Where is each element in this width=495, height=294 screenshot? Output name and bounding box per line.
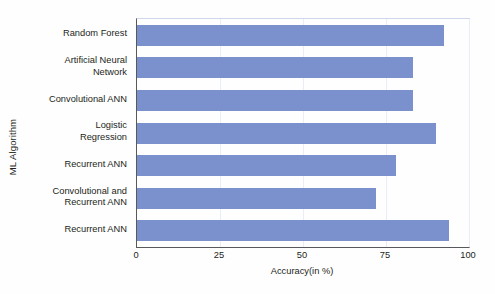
- y-axis-tick-label: Logistic Regression: [26, 116, 132, 149]
- gridline: [469, 19, 470, 247]
- bar-slot: [137, 84, 469, 117]
- x-axis-tick-label: 75: [380, 250, 390, 260]
- bar-slot: [137, 149, 469, 182]
- plot-area: [136, 18, 470, 248]
- y-axis-tick-label: Convolutional ANN: [26, 83, 132, 116]
- bar: [137, 25, 444, 46]
- bar-slot: [137, 182, 469, 215]
- x-axis-tick-label: 100: [460, 250, 476, 260]
- bar: [137, 123, 436, 144]
- x-axis-title: Accuracy(in %): [136, 266, 468, 276]
- y-axis-tick-label: Artificial Neural Network: [26, 51, 132, 84]
- bar: [137, 188, 376, 209]
- bar-slot: [137, 19, 469, 52]
- bar: [137, 57, 413, 78]
- bar-series: [137, 19, 469, 247]
- x-axis-tick-label: 25: [214, 250, 224, 260]
- bar-chart: ML Algorithm Random Forest Artificial Ne…: [0, 0, 495, 294]
- y-axis-tick-label: Random Forest: [26, 18, 132, 51]
- x-axis-tick-labels: 0255075100: [136, 250, 468, 264]
- y-axis-tick-labels: Random Forest Artificial Neural Network …: [26, 18, 132, 246]
- bar-slot: [137, 117, 469, 150]
- y-axis-tick-label: Convolutional and Recurrent ANN: [26, 181, 132, 214]
- bar: [137, 90, 413, 111]
- bar: [137, 220, 449, 241]
- y-axis-tick-label: Recurrent ANN: [26, 213, 132, 246]
- x-axis-tick-label: 50: [297, 250, 307, 260]
- bar-slot: [137, 214, 469, 247]
- y-axis-tick-label: Recurrent ANN: [26, 148, 132, 181]
- x-axis-tick-label: 0: [133, 250, 138, 260]
- bar-slot: [137, 52, 469, 85]
- y-axis-title: ML Algorithm: [0, 0, 24, 294]
- bar: [137, 155, 396, 176]
